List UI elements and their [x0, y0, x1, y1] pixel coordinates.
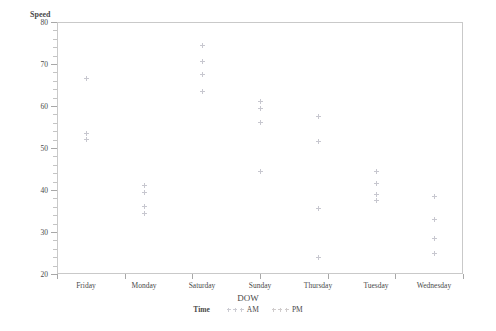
legend-item-label: AM — [247, 305, 259, 314]
y-axis-minor-tick — [53, 98, 57, 99]
y-axis-minor-tick — [53, 198, 57, 199]
data-point — [84, 131, 89, 136]
scatter-plot-figure: Speed 20304050607080 FridayMondaySaturda… — [0, 0, 496, 331]
y-axis-minor-tick — [53, 39, 57, 40]
data-point — [374, 192, 379, 197]
x-axis-tick — [125, 274, 126, 279]
y-axis-tick-label: 40 — [26, 186, 48, 195]
legend-item-label: PM — [292, 305, 303, 314]
y-axis-minor-tick — [53, 30, 57, 31]
y-axis-minor-tick — [53, 249, 57, 250]
legend-item[interactable]: PM — [272, 305, 303, 314]
y-axis-minor-tick — [53, 72, 57, 73]
data-point — [316, 255, 321, 260]
data-point — [200, 43, 205, 48]
y-axis-tick — [51, 106, 57, 107]
data-point — [258, 99, 263, 104]
x-axis-tick — [260, 274, 261, 279]
y-axis-minor-tick — [53, 165, 57, 166]
x-axis-title: DOW — [0, 293, 496, 303]
y-axis-minor-tick — [53, 257, 57, 258]
y-axis-tick — [51, 22, 57, 23]
y-axis-minor-tick — [53, 123, 57, 124]
data-point — [374, 198, 379, 203]
data-point — [258, 169, 263, 174]
legend: Time AMPM — [0, 305, 496, 314]
y-axis-minor-tick — [53, 131, 57, 132]
x-axis-tick-label: Wednesday — [417, 281, 451, 290]
data-point — [432, 217, 437, 222]
y-axis-minor-tick — [53, 47, 57, 48]
data-point — [374, 181, 379, 186]
y-axis-minor-tick — [53, 89, 57, 90]
y-axis-tick-label: 60 — [26, 102, 48, 111]
y-axis-minor-tick — [53, 81, 57, 82]
x-axis-tick-label: Thursday — [304, 281, 332, 290]
data-point — [432, 251, 437, 256]
x-axis-tick-label: Tuesday — [363, 281, 388, 290]
x-axis-tick — [328, 274, 329, 279]
data-point — [316, 206, 321, 211]
legend-marker-icon — [272, 308, 289, 312]
y-axis-minor-tick — [53, 240, 57, 241]
x-axis-tick-label: Sunday — [249, 281, 272, 290]
data-point — [432, 194, 437, 199]
y-axis-tick — [51, 190, 57, 191]
x-axis-tick — [192, 274, 193, 279]
y-axis-minor-tick — [53, 156, 57, 157]
y-axis-tick — [51, 232, 57, 233]
y-axis-tick-label: 30 — [26, 228, 48, 237]
data-point — [374, 169, 379, 174]
y-axis-minor-tick — [53, 215, 57, 216]
data-point — [142, 204, 147, 209]
x-axis-tick — [463, 274, 464, 279]
data-point — [200, 72, 205, 77]
data-point — [142, 190, 147, 195]
y-axis-minor-tick — [53, 266, 57, 267]
legend-item[interactable]: AM — [227, 305, 259, 314]
y-axis-minor-tick — [53, 173, 57, 174]
x-axis-tick-label: Friday — [76, 281, 96, 290]
y-axis-minor-tick — [53, 182, 57, 183]
x-axis-tick-label: Saturday — [189, 281, 216, 290]
x-axis-tick-label: Monday — [132, 281, 157, 290]
data-point — [200, 89, 205, 94]
data-point — [258, 120, 263, 125]
plot-area — [57, 22, 463, 274]
y-axis-tick-label: 20 — [26, 270, 48, 279]
y-axis-tick-label: 80 — [26, 18, 48, 27]
y-axis-tick — [51, 64, 57, 65]
y-axis-minor-tick — [53, 207, 57, 208]
data-point — [316, 114, 321, 119]
y-axis-minor-tick — [53, 224, 57, 225]
legend-marker-icon — [227, 308, 244, 312]
data-point — [432, 236, 437, 241]
x-axis-tick — [395, 274, 396, 279]
data-point — [84, 76, 89, 81]
data-point — [316, 139, 321, 144]
y-axis-tick-label: 70 — [26, 60, 48, 69]
y-axis-minor-tick — [53, 140, 57, 141]
data-point — [142, 183, 147, 188]
y-axis-tick-label: 50 — [26, 144, 48, 153]
y-axis-tick — [51, 148, 57, 149]
y-axis-minor-tick — [53, 56, 57, 57]
data-point — [258, 106, 263, 111]
data-point — [84, 137, 89, 142]
data-point — [142, 211, 147, 216]
y-axis-minor-tick — [53, 114, 57, 115]
data-point — [200, 59, 205, 64]
x-axis-tick — [57, 274, 58, 279]
legend-title: Time — [193, 305, 210, 314]
